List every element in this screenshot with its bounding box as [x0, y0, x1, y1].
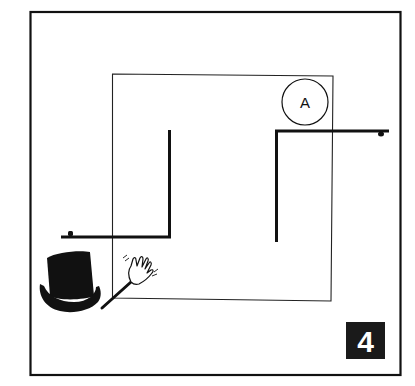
wall-knob [68, 231, 73, 236]
waving-hand-icon [102, 255, 158, 308]
circle-marker: A [282, 79, 328, 125]
wall-knob [378, 132, 384, 137]
top-hat-icon [40, 251, 101, 312]
left-wall [61, 130, 170, 237]
panel-number-badge: 4 [346, 322, 385, 359]
panel-number: 4 [357, 325, 374, 358]
circle-label: A [300, 94, 310, 111]
puzzle-panel: A 4 [0, 0, 415, 386]
outer-frame [31, 12, 401, 375]
